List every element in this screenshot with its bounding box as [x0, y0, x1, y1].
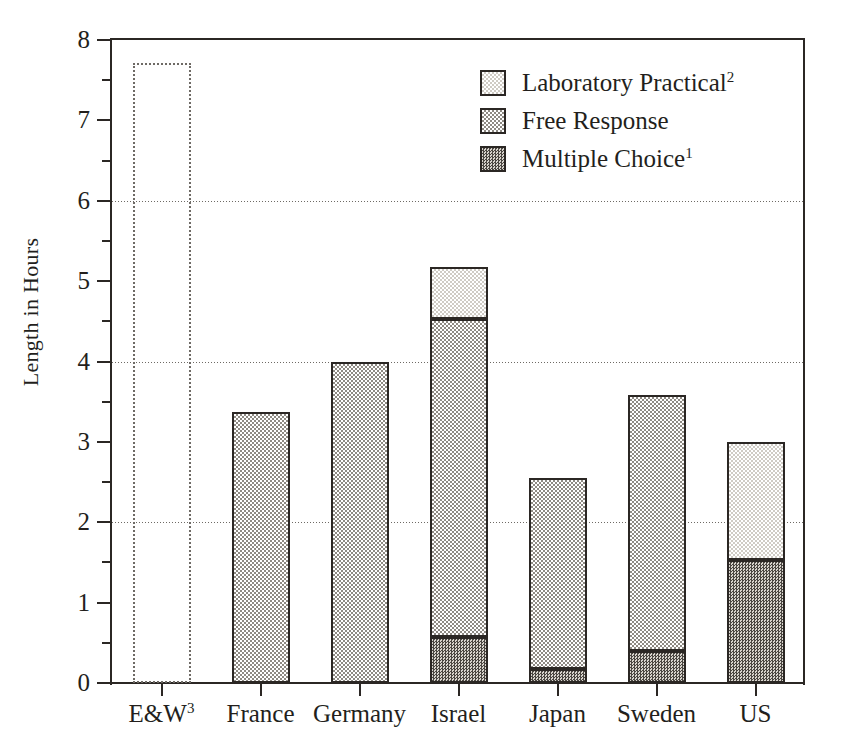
legend: Laboratory Practical2Free ResponseMultip… [480, 64, 734, 178]
y-tick-minor-4.5 [102, 320, 111, 322]
y-axis-label-wrap: 7 [30, 120, 90, 121]
bar-segment-light [727, 442, 785, 560]
x-tick-france [260, 683, 262, 696]
y-axis-label: 3 [36, 429, 90, 454]
y-tick-3 [97, 441, 111, 443]
y-tick-minor-2.5 [102, 481, 111, 483]
y-tick-minor-3.5 [102, 401, 111, 403]
y-tick-minor-6.5 [102, 160, 111, 162]
legend-label: Multiple Choice1 [522, 146, 693, 172]
bar-segment-outline [133, 63, 191, 683]
bar-segment-medium [232, 412, 290, 683]
y-axis-label: 0 [36, 670, 90, 695]
y-tick-4 [97, 361, 111, 363]
bar-segment-medium [529, 478, 587, 668]
x-tick-germany [359, 683, 361, 696]
y-axis-label-wrap: 1 [30, 603, 90, 604]
y-tick-5 [97, 280, 111, 282]
y-tick-1 [97, 602, 111, 604]
y-axis-label: 2 [36, 509, 90, 534]
y-tick-minor-7.5 [102, 79, 111, 81]
y-tick-0 [97, 682, 111, 684]
bar-segment-medium [628, 395, 686, 651]
y-axis-label: 1 [36, 590, 90, 615]
y-axis-label-wrap: 4 [30, 362, 90, 363]
bar-us[interactable] [727, 40, 785, 683]
y-tick-minor-5.5 [102, 240, 111, 242]
y-axis-label-wrap: 0 [30, 683, 90, 684]
legend-swatch-light [480, 70, 506, 96]
bar-segment-dark [727, 560, 785, 683]
y-axis-label: 7 [36, 107, 90, 132]
bar-segment-light [430, 267, 488, 318]
bar-segment-medium [430, 319, 488, 637]
x-axis-label-us: US [666, 700, 846, 728]
legend-swatch-dark [480, 146, 506, 172]
bar-france[interactable] [232, 40, 290, 683]
x-tick-israel [458, 683, 460, 696]
y-tick-minor-0.5 [102, 642, 111, 644]
bar-chart: Length in Hours 012345678 E&W3FranceGerm… [0, 0, 850, 747]
y-axis-label-wrap: 8 [30, 40, 90, 41]
y-axis-label: 4 [36, 349, 90, 374]
y-axis-label-wrap: 2 [30, 522, 90, 523]
legend-swatch-medium [480, 108, 506, 134]
y-tick-8 [97, 39, 111, 41]
bar-segment-medium [331, 362, 389, 684]
x-tick-japan [557, 683, 559, 696]
y-tick-6 [97, 200, 111, 202]
legend-item[interactable]: Laboratory Practical2 [480, 64, 734, 102]
legend-label-footnote: 1 [685, 145, 693, 161]
y-tick-2 [97, 521, 111, 523]
y-axis-label-wrap: 6 [30, 201, 90, 202]
x-tick-us [755, 683, 757, 696]
x-tick-sweden [656, 683, 658, 696]
y-axis-label: 6 [36, 188, 90, 213]
bar-germany[interactable] [331, 40, 389, 683]
bar-segment-dark [628, 651, 686, 683]
legend-item[interactable]: Multiple Choice1 [480, 140, 734, 178]
y-axis-label-wrap: 5 [30, 281, 90, 282]
legend-label: Free Response [522, 108, 669, 134]
y-axis-label: 8 [36, 27, 90, 52]
bar-segment-dark [430, 637, 488, 683]
y-axis-label-wrap: 3 [30, 442, 90, 443]
y-tick-minor-1.5 [102, 561, 111, 563]
bar-segment-dark [529, 669, 587, 683]
legend-label-footnote: 2 [727, 69, 735, 85]
y-tick-7 [97, 119, 111, 121]
legend-label: Laboratory Practical2 [522, 70, 734, 96]
bar-e-w[interactable] [133, 40, 191, 683]
y-axis-label: 5 [36, 268, 90, 293]
legend-item[interactable]: Free Response [480, 102, 734, 140]
x-tick-e-w [161, 683, 163, 696]
